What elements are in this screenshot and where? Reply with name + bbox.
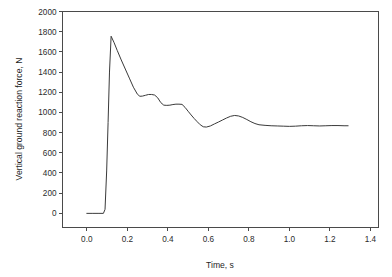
x-tick-label: 0.0	[81, 235, 93, 244]
chart-figure: 0200400600800100012001400160018002000 0.…	[0, 0, 392, 277]
y-tick-label: 1800	[38, 28, 57, 37]
y-axis-ticks	[59, 12, 63, 214]
x-axis-ticks	[87, 228, 371, 232]
x-tick-label: 0.2	[122, 235, 134, 244]
y-axis-title: Vertical ground reaction force, N	[14, 58, 24, 181]
y-tick-label: 0	[52, 209, 57, 218]
x-tick-label: 0.6	[203, 235, 215, 244]
y-tick-label: 200	[43, 189, 57, 198]
y-tick-label: 800	[43, 129, 57, 138]
x-tick-label: 0.8	[243, 235, 255, 244]
y-tick-label: 1600	[38, 48, 57, 57]
x-tick-label: 1.0	[284, 235, 296, 244]
y-tick-label: 1200	[38, 88, 57, 97]
y-tick-label: 1400	[38, 68, 57, 77]
x-tick-label: 1.4	[365, 235, 377, 244]
line-chart-canvas: 0200400600800100012001400160018002000 0.…	[0, 0, 392, 277]
y-tick-label: 600	[43, 149, 57, 158]
x-tick-label: 1.2	[324, 235, 336, 244]
x-axis-tick-labels: 0.00.20.40.60.81.01.21.4	[81, 235, 376, 244]
y-tick-label: 1000	[38, 108, 57, 117]
series-line-vertical-ground-reaction-force	[87, 36, 348, 213]
plot-frame	[63, 12, 379, 228]
y-tick-label: 2000	[38, 8, 57, 17]
data-series-group	[87, 36, 348, 213]
x-axis-title: Time, s	[206, 260, 234, 270]
x-tick-label: 0.4	[162, 235, 174, 244]
y-tick-label: 400	[43, 169, 57, 178]
frame-box	[63, 12, 379, 228]
y-axis-tick-labels: 0200400600800100012001400160018002000	[38, 8, 57, 219]
